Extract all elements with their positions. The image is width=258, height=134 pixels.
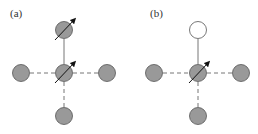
site-right — [99, 65, 116, 82]
site-bottom — [190, 108, 207, 125]
panel-b-label: (b) — [150, 7, 163, 20]
panel-b: (b) — [146, 7, 250, 125]
site-bottom — [56, 108, 73, 125]
panel-a: (a) — [10, 7, 116, 125]
panel-a-label: (a) — [10, 7, 23, 20]
site-left — [13, 65, 30, 82]
site-right — [233, 65, 250, 82]
lattice-diagram: (a) (b) — [0, 0, 258, 134]
site-top-empty — [190, 22, 207, 39]
site-left — [146, 65, 163, 82]
